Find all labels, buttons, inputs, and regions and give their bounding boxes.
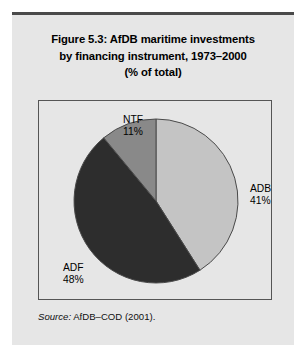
figure-title-line-1: Figure 5.3: AfDB maritime investments xyxy=(12,31,294,48)
pie-slice-label-ntf-value: 11% xyxy=(123,126,143,138)
chart-plot-area: NTF 11% ADB 41% ADF 48% xyxy=(38,100,272,300)
pie-slice-label-adf-value: 48% xyxy=(63,274,84,286)
figure-panel: Figure 5.3: AfDB maritime investments by… xyxy=(12,12,294,345)
pie-slice-label-adb: ADB 41% xyxy=(250,183,271,208)
figure-source-text: AfDB–COD (2001). xyxy=(71,311,155,322)
figure-source: Source: AfDB–COD (2001). xyxy=(38,311,155,322)
figure-title-line-3: (% of total) xyxy=(12,64,294,81)
pie-slice-label-adb-name: ADB xyxy=(250,183,271,195)
pie-slice-label-adb-value: 41% xyxy=(250,195,271,207)
figure-source-label: Source: xyxy=(38,311,71,322)
pie-slice-label-ntf: NTF 11% xyxy=(123,114,143,139)
figure-title-line-2: by financing instrument, 1973–2000 xyxy=(12,48,294,65)
pie-slice-label-ntf-name: NTF xyxy=(123,114,143,126)
figure-title: Figure 5.3: AfDB maritime investments by… xyxy=(12,31,294,81)
pie-slice-group xyxy=(74,119,238,283)
pie-slice-label-adf-name: ADF xyxy=(63,262,84,274)
figure-container: Figure 5.3: AfDB maritime investments by… xyxy=(0,0,306,361)
pie-slice-label-adf: ADF 48% xyxy=(63,262,84,287)
